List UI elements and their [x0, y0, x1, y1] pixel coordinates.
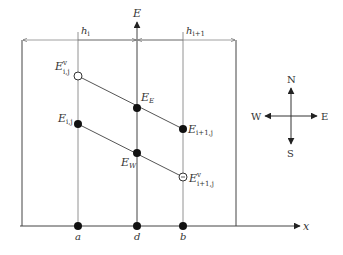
dimension-label-h-i: hi	[81, 25, 90, 38]
x-point-a	[74, 222, 82, 230]
e-axis-label: E	[132, 7, 141, 20]
label-e-ij: Ei,j	[57, 112, 73, 126]
upper-link-line	[78, 76, 183, 129]
label-e-west: EW	[120, 156, 137, 170]
diagram-canvas: E x hi hi+1 Evi,j EE Ei+1,j Ei,j EW Evi+…	[0, 0, 343, 255]
node-e-west	[133, 149, 141, 157]
node-e-v-ij	[74, 72, 82, 80]
label-e-v-ij: Evi,j	[54, 59, 70, 76]
x-point-label-b: b	[180, 231, 186, 242]
x-point-d	[133, 222, 141, 230]
label-e-i1j: Ei+1,j	[187, 123, 213, 137]
label-e-east: EE	[140, 91, 154, 105]
x-point-b	[179, 222, 187, 230]
compass-west-label: W	[251, 111, 262, 122]
compass-east-label: E	[321, 111, 328, 122]
compass-north-label: N	[287, 74, 296, 85]
compass-south-label: S	[287, 148, 294, 159]
label-e-v-i1j: Evi+1,j	[188, 171, 214, 188]
dimension-label-h-i1: hi+1	[186, 25, 205, 38]
node-e-east	[133, 104, 141, 112]
node-e-ij	[74, 120, 82, 128]
x-point-label-a: a	[75, 231, 81, 242]
x-axis-label: x	[303, 220, 310, 233]
compass-rose-icon: N S W E	[251, 74, 328, 159]
x-point-label-d: d	[134, 231, 140, 242]
node-e-i1j	[179, 125, 187, 133]
